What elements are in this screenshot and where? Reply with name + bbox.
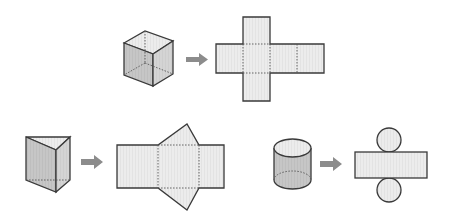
diagram-canvas: Solids and their nets xyxy=(0,0,452,223)
diagram-svg xyxy=(0,0,452,223)
arrow-right-icon xyxy=(320,157,342,171)
arrow-right-icon xyxy=(186,53,208,66)
arrow-right-icon xyxy=(81,155,103,169)
cube-net xyxy=(216,17,324,101)
cylinder-net xyxy=(355,128,427,202)
cylinder-solid xyxy=(274,139,311,189)
triangular-prism-solid xyxy=(26,137,70,192)
cube-solid xyxy=(124,31,173,86)
triangular-prism-net xyxy=(117,124,224,210)
